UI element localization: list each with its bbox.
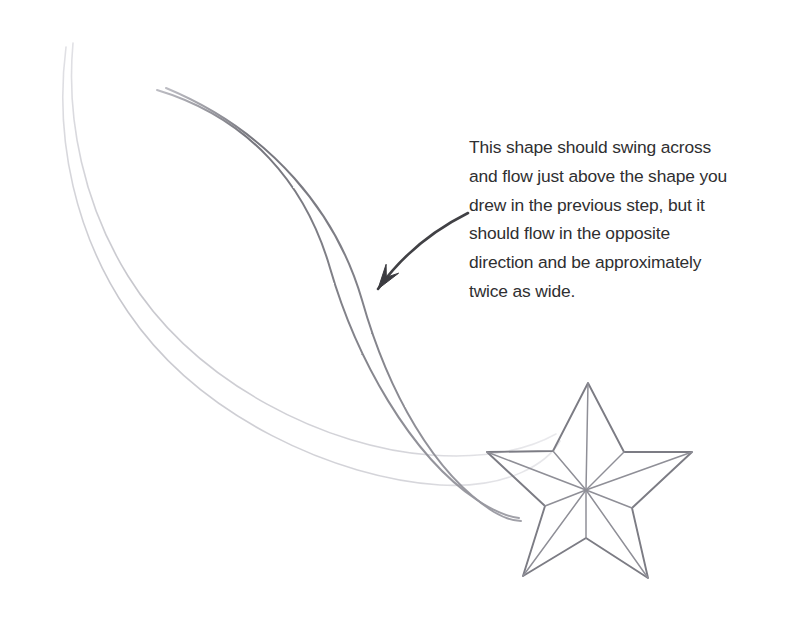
star-outline <box>487 383 692 578</box>
annotation-callout-text: This shape should swing across and flow … <box>469 133 769 306</box>
illustration-page: This shape should swing across and flow … <box>0 0 794 624</box>
drawing-canvas <box>0 0 794 624</box>
new-ribbon-upper-edge <box>157 90 519 518</box>
curved-arrow <box>378 213 468 289</box>
five-pointed-star <box>487 383 692 578</box>
